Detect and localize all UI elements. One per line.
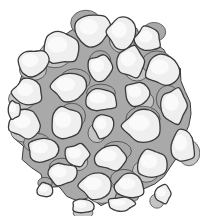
cell-highlight (22, 54, 39, 67)
cell-highlight (111, 199, 125, 206)
cell-highlight (39, 185, 48, 192)
cell-highlight (75, 201, 87, 208)
cell-highlight (119, 178, 136, 190)
cell-highlight (89, 92, 107, 103)
cell-cluster-illustration (0, 0, 200, 216)
cell-highlight (141, 154, 158, 168)
cell-highlight (55, 112, 72, 128)
cell-cluster-drawing (0, 0, 200, 216)
cell-highlight (164, 94, 178, 111)
cell-highlight (48, 37, 68, 53)
cell-highlight (112, 22, 127, 38)
cell-highlight (52, 166, 67, 177)
cell-highlight (129, 115, 150, 131)
cell-highlight (138, 31, 152, 43)
cell-highlight (84, 177, 102, 190)
cell-highlight (32, 142, 49, 154)
cell-highlight (91, 59, 104, 72)
cell-highlight (174, 135, 187, 151)
cell-highlight (157, 188, 166, 197)
cell-highlight (56, 77, 75, 91)
cell-highlight (10, 104, 17, 113)
cell-highlight (121, 52, 136, 67)
cell-highlight (96, 118, 107, 130)
cell-highlight (17, 83, 34, 96)
cell-highlight (150, 60, 169, 75)
cell-highlight (79, 19, 98, 35)
cell-highlight (128, 86, 141, 98)
cell-highlight (68, 147, 81, 158)
cell-highlight (99, 150, 117, 162)
